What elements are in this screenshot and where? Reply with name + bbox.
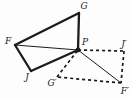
vertex-label-Fp: F′ xyxy=(120,86,129,96)
vertex-label-P: P xyxy=(81,37,89,47)
edge-Fp-Gp xyxy=(57,77,121,83)
edge-F-P xyxy=(15,45,78,50)
edge-P-Fp xyxy=(78,50,121,83)
diagram-stage: FGPJG′J′F′ xyxy=(0,0,132,99)
point-P-dot xyxy=(76,48,81,53)
vertex-label-G: G xyxy=(80,1,87,11)
edge-G-P xyxy=(78,13,79,50)
edge-F-G xyxy=(15,13,79,45)
edge-P-Jp xyxy=(78,50,124,51)
vertex-label-Jp: J′ xyxy=(119,39,127,49)
edge-J-F xyxy=(15,45,31,71)
geometry-diagram: FGPJG′J′F′ xyxy=(0,0,132,99)
edge-Jp-Fp xyxy=(121,51,124,83)
vertex-label-J: J xyxy=(23,72,30,82)
vertex-label-Gp: G′ xyxy=(47,78,56,88)
edge-P-J xyxy=(31,50,78,71)
vertex-label-F: F xyxy=(4,36,12,46)
